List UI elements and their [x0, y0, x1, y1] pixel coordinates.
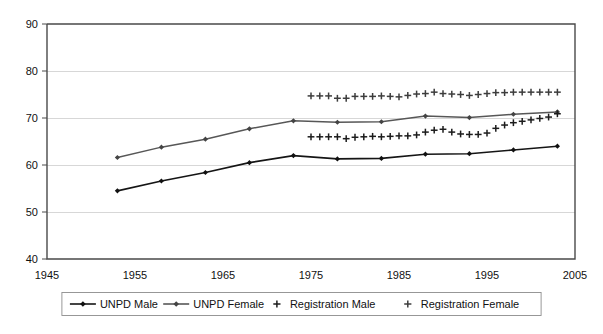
x-tick-label-1985: 1985: [387, 269, 411, 281]
legend-item-registration-female[interactable]: Registration Female: [404, 298, 519, 310]
legend-label: Registration Male: [290, 298, 376, 310]
chart-background: [0, 0, 603, 334]
legend-label: UNPD Male: [100, 298, 158, 310]
x-tick-label-1955: 1955: [123, 269, 147, 281]
y-tick-label-90: 90: [26, 18, 38, 30]
y-tick-label-80: 80: [26, 65, 38, 77]
life-expectancy-line-chart: 405060708090 194519551965197519851995200…: [0, 0, 603, 334]
x-tick-label-1945: 1945: [35, 269, 59, 281]
y-tick-label-40: 40: [26, 253, 38, 265]
chart-legend: UNPD MaleUNPD FemaleRegistration MaleReg…: [62, 293, 541, 316]
y-tick-label-60: 60: [26, 159, 38, 171]
x-tick-label-1995: 1995: [475, 269, 499, 281]
y-tick-label-50: 50: [26, 206, 38, 218]
legend-label: UNPD Female: [193, 298, 264, 310]
y-tick-label-70: 70: [26, 112, 38, 124]
x-tick-label-1975: 1975: [299, 269, 323, 281]
legend-label: Registration Female: [421, 298, 519, 310]
x-tick-label-1965: 1965: [211, 269, 235, 281]
x-tick-label-2005: 2005: [563, 269, 587, 281]
chart-container: 405060708090 194519551965197519851995200…: [0, 0, 603, 334]
